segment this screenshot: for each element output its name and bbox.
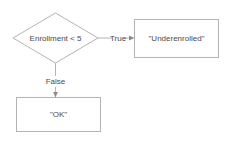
flowchart-canvas: Enrollment < 5 "Underenrolled" "OK" True…	[0, 0, 228, 145]
edge-false-arrowhead	[53, 92, 58, 98]
underenrolled-node-label: "Underenrolled"	[149, 34, 205, 43]
edge-label-false: False	[46, 77, 66, 86]
decision-node-label: Enrollment < 5	[30, 34, 82, 43]
edge-label-true: True	[110, 34, 127, 43]
flowchart-svg: Enrollment < 5 "Underenrolled" "OK" True…	[0, 0, 228, 145]
edge-true-arrowhead	[129, 36, 135, 41]
ok-node-label: "OK"	[50, 110, 67, 119]
